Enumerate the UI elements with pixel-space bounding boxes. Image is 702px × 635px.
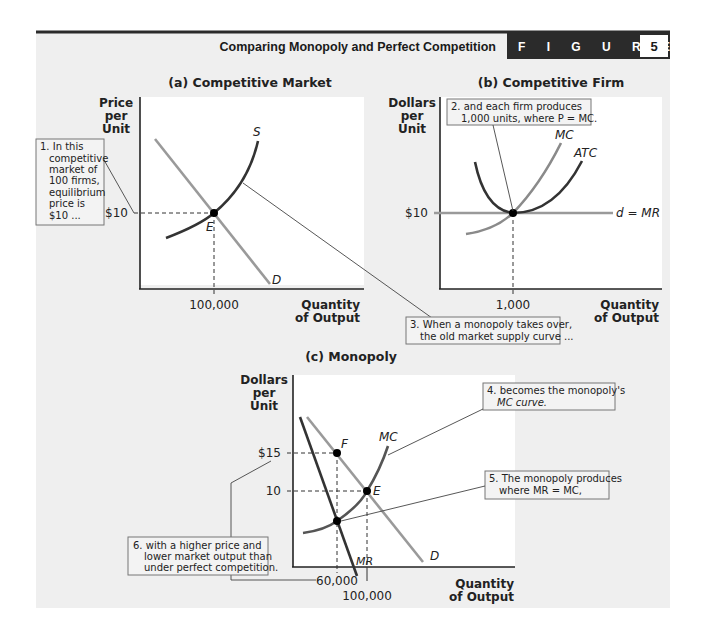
callout-4-line: MC curve. <box>497 397 547 408</box>
panel-b-ylabel-1: Dollars <box>388 96 436 110</box>
panel-c-ytick-10: 10 <box>266 484 281 498</box>
callout-1-line: market of <box>49 164 98 175</box>
panel-b-atc-label: ATC <box>573 146 598 160</box>
callout-6-line: under perfect competition. <box>144 562 278 573</box>
panel-b-dmr-label: d = MR <box>616 206 660 220</box>
panel-a-xlabel-1: Quantity <box>301 298 360 312</box>
callout-4-line: 4. becomes the monopoly's <box>487 385 625 396</box>
callout-5-line: 5. The monopoly produces <box>489 473 622 484</box>
panel-a-equilibrium-point <box>210 209 218 217</box>
panel-b-mc-label: MC <box>555 128 574 142</box>
callout-3-line: 3. When a monopoly takes over, <box>410 319 572 330</box>
panel-a-supply-label: S <box>253 125 261 139</box>
panel-c-point-e <box>363 487 371 495</box>
panel-c-point-e-label: E <box>373 484 381 498</box>
panel-b-xlabel-1: Quantity <box>600 298 659 312</box>
panel-b-xlabel-2: of Output <box>594 311 659 325</box>
callout-1-line: competitive <box>49 153 108 164</box>
callout-1-line: 100 firms, <box>49 175 100 186</box>
callout-1-line: 1. In this <box>40 141 83 152</box>
panel-a-demand-label: D <box>272 273 281 287</box>
callout-1-line: equilibrium <box>49 187 106 198</box>
callout-2-line: 1,000 units, where P = MC. <box>461 113 597 124</box>
panel-c-ytick-15: $15 <box>258 446 281 460</box>
panel-c-point-mr-mc <box>333 517 341 525</box>
panel-a-xlabel-2: of Output <box>295 311 360 325</box>
panel-a-plot-area <box>140 97 364 285</box>
panel-c-point-f-label: F <box>341 437 349 451</box>
panel-a-equilibrium-label: E <box>206 220 214 234</box>
panel-c-point-f <box>333 449 341 457</box>
callout-6-line: lower market output than <box>144 551 272 562</box>
panel-c-xlabel-1: Quantity <box>455 577 514 591</box>
callout-3-line: the old market supply curve ... <box>420 331 574 342</box>
figure: Comparing Monopoly and Perfect Competiti… <box>0 0 702 635</box>
callout-1-line: price is <box>49 198 85 209</box>
panel-a-ylabel-1: Price <box>99 96 133 110</box>
panel-c-ylabel-1: Dollars <box>240 373 288 387</box>
callout-6-line: 6. with a higher price and <box>133 540 262 551</box>
panel-c-ylabel-2: per <box>253 386 276 400</box>
callout-2-line: 2. and each firm produces <box>451 101 582 112</box>
panel-c-mc-label: MC <box>379 430 398 444</box>
panel-b-title: (b) Competitive Firm <box>478 75 624 90</box>
callout-1-line: $10 ... <box>49 210 81 221</box>
panel-c-xtick-60k: 60,000 <box>316 574 358 588</box>
panel-c-xtick-100k: 100,000 <box>342 589 392 603</box>
panel-c-ylabel-3: Unit <box>250 399 278 413</box>
panel-b-ylabel-2: per <box>401 109 424 123</box>
panel-b-ytick: $10 <box>405 206 428 220</box>
panel-a-ylabel-3: Unit <box>102 122 130 136</box>
panel-c-demand-label: D <box>430 549 439 563</box>
panel-c-mr-label: MR <box>356 555 373 568</box>
panel-a-title: (a) Competitive Market <box>168 75 331 90</box>
callout-5-line: where MR = MC, <box>499 485 582 496</box>
panel-a-ytick: $10 <box>105 206 128 220</box>
panel-b-ylabel-3: Unit <box>398 122 426 136</box>
panel-b-plot-area <box>440 97 662 289</box>
figure-title: Comparing Monopoly and Perfect Competiti… <box>220 40 496 54</box>
panel-b-xtick: 1,000 <box>496 298 530 312</box>
panel-c-title: (c) Monopoly <box>305 349 397 364</box>
panel-c-xlabel-2: of Output <box>449 590 514 604</box>
figure-number: 5 <box>650 39 657 54</box>
panel-a-ylabel-2: per <box>105 109 128 123</box>
panel-a-xtick: 100,000 <box>189 298 239 312</box>
